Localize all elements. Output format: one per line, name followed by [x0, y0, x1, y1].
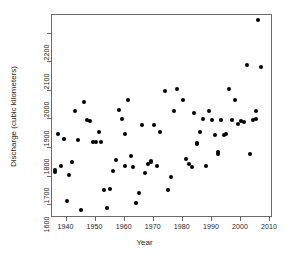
y-axis-title: Discharge (cubic kilometers) — [9, 66, 18, 167]
data-point — [163, 89, 167, 93]
data-point — [131, 165, 135, 169]
x-axis-tick-label: 2010 — [249, 222, 289, 231]
data-point — [198, 130, 202, 134]
data-point — [111, 169, 115, 173]
data-point — [248, 152, 252, 156]
y-axis-tick-label: 2200 — [42, 33, 51, 73]
data-point — [172, 109, 176, 113]
data-point — [242, 120, 246, 124]
plot-frame — [51, 14, 272, 217]
x-axis-tick — [124, 217, 125, 221]
data-point — [123, 132, 127, 136]
data-point — [259, 65, 263, 69]
data-point — [169, 175, 173, 179]
data-point — [140, 123, 144, 127]
data-point — [97, 130, 101, 134]
y-axis-title-wrap: Discharge (cubic kilometers) — [6, 0, 20, 232]
data-point — [67, 173, 71, 177]
data-point — [166, 188, 170, 192]
data-point — [204, 164, 208, 168]
data-point — [123, 164, 127, 168]
data-point — [152, 123, 156, 127]
data-point — [256, 18, 260, 22]
x-axis-tick — [269, 217, 270, 221]
data-point — [213, 133, 217, 137]
data-point — [129, 154, 133, 158]
data-point — [245, 63, 249, 67]
data-point — [227, 87, 231, 91]
data-point — [117, 108, 121, 112]
data-point — [143, 171, 147, 175]
data-point — [73, 109, 77, 113]
data-point — [62, 137, 66, 141]
x-axis-tick — [95, 217, 96, 221]
data-point — [195, 142, 199, 146]
data-point — [216, 152, 220, 156]
data-point — [184, 157, 188, 161]
data-point — [114, 158, 118, 162]
data-point — [120, 117, 124, 121]
x-axis-title: Year — [0, 238, 289, 247]
data-point — [59, 164, 63, 168]
data-point — [230, 118, 234, 122]
data-point — [192, 111, 196, 115]
x-axis-tick — [153, 217, 154, 221]
data-point — [134, 201, 138, 205]
data-point — [76, 138, 80, 142]
x-axis-tick — [182, 217, 183, 221]
data-point — [207, 109, 211, 113]
data-point — [82, 100, 86, 104]
data-point — [137, 191, 141, 195]
data-point — [65, 199, 69, 203]
data-point — [149, 159, 153, 163]
data-point — [70, 160, 74, 164]
data-point — [105, 206, 109, 210]
x-axis-tick — [66, 217, 67, 221]
data-point — [56, 132, 60, 136]
data-point — [254, 117, 258, 121]
data-point — [126, 98, 130, 102]
data-point — [210, 118, 214, 122]
data-point — [175, 87, 179, 91]
data-point — [108, 187, 112, 191]
data-point — [155, 164, 159, 168]
data-point — [53, 170, 57, 174]
data-point — [190, 165, 194, 169]
x-axis-tick — [240, 217, 241, 221]
data-point — [102, 188, 106, 192]
data-point — [79, 208, 83, 212]
data-point — [158, 130, 162, 134]
data-point — [233, 98, 237, 102]
data-point — [88, 119, 92, 123]
data-points-layer — [52, 15, 271, 216]
data-point — [99, 140, 103, 144]
data-point — [224, 132, 228, 136]
data-point — [219, 118, 223, 122]
data-point — [181, 98, 185, 102]
data-point — [201, 117, 205, 121]
x-axis-tick — [211, 217, 212, 221]
scatter-plot-figure: 19401950196019701980199020002010 1600170… — [0, 0, 289, 260]
data-point — [254, 109, 258, 113]
data-point — [94, 140, 98, 144]
